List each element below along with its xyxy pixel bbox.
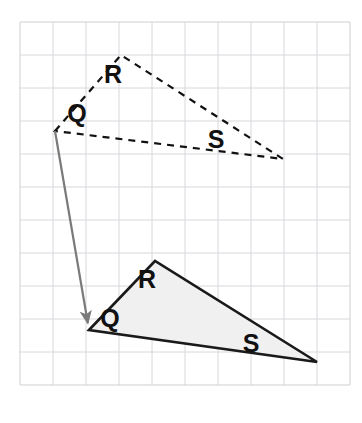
- vertex-label-q: Q: [67, 99, 86, 127]
- vertex-label-s: S: [243, 329, 260, 357]
- geometry-figure: QRSQRS: [0, 0, 362, 423]
- vertex-label-q: Q: [100, 304, 119, 332]
- vertex-label-r: R: [104, 60, 122, 88]
- figure-canvas: QRSQRS: [0, 0, 362, 423]
- vertex-label-r: R: [138, 265, 156, 293]
- vertex-label-s: S: [208, 125, 225, 153]
